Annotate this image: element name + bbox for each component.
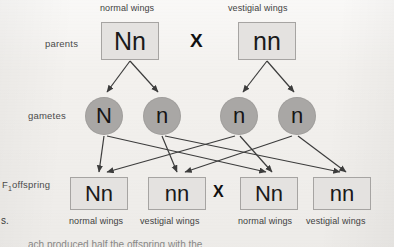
offspring-caption-1: normal wings xyxy=(69,216,123,226)
f1-offspring-suffix: offspring xyxy=(12,179,50,190)
parent-caption-vestigial-wings: vestigial wings xyxy=(228,3,288,13)
arrow-gameteN-to-offspring3 xyxy=(107,136,266,172)
arrow-parent2-to-gamete-n-right xyxy=(267,61,294,92)
arrow-gamete-n4-to-offspring2 xyxy=(185,136,292,172)
offspring-cross-symbol: X xyxy=(213,183,224,201)
offspring-genotype-box-3[interactable]: Nn xyxy=(240,177,298,210)
arrow-parent1-to-gamete-N xyxy=(107,61,130,92)
arrow-parent1-to-gamete-n xyxy=(130,61,158,92)
gamete-circle-1[interactable]: N xyxy=(85,97,123,135)
row-label-f1-offspring: F1offspring xyxy=(2,179,50,190)
gamete-circle-4[interactable]: n xyxy=(278,97,316,135)
offspring-caption-2: vestigial wings xyxy=(140,216,200,226)
parent-genotype-box-1[interactable]: Nn xyxy=(101,22,159,60)
row-label-gametes: gametes xyxy=(28,110,66,121)
offspring-caption-3: normal wings xyxy=(238,216,292,226)
offspring-genotype-box-1[interactable]: Nn xyxy=(70,177,128,210)
arrow-gameteN-to-offspring1 xyxy=(99,136,104,172)
arrow-gamete-n2-to-offspring4 xyxy=(165,136,340,172)
row-label-parents: parents xyxy=(45,38,78,49)
arrow-gamete-n4-to-offspring4 xyxy=(298,136,346,172)
arrow-gamete-n3-to-offspring1 xyxy=(107,136,235,172)
diagram-canvas: parents gametes F1offspring normal wings… xyxy=(0,0,394,247)
offspring-caption-4: vestigial wings xyxy=(306,216,366,226)
parent-genotype-box-2[interactable]: nn xyxy=(238,22,296,60)
gamete-circle-2[interactable]: n xyxy=(143,97,181,135)
arrow-parent2-to-gamete-n-left xyxy=(243,61,267,92)
offspring-genotype-box-2[interactable]: nn xyxy=(148,177,206,210)
parent-caption-normal-wings: normal wings xyxy=(100,3,154,13)
clipped-left-text-fragment: s. xyxy=(1,215,9,226)
clipped-bottom-text-fragment: ach produced half the offspring with the xyxy=(28,239,328,247)
gamete-circle-3[interactable]: n xyxy=(220,97,258,135)
offspring-genotype-box-4[interactable]: nn xyxy=(313,177,371,210)
parent-cross-symbol: X xyxy=(190,30,203,52)
